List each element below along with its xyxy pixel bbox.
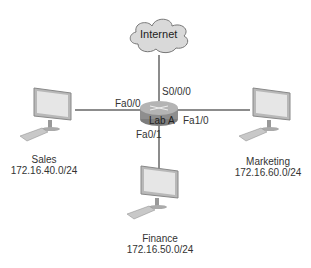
sales-network: 172.16.40.0/24 <box>4 165 84 176</box>
finance-network: 172.16.50.0/24 <box>120 244 200 255</box>
interface-fa10-label: Fa1/0 <box>183 115 209 126</box>
marketing-computer-icon <box>239 88 290 141</box>
interface-fa00-label: Fa0/0 <box>115 98 141 109</box>
sales-computer-icon <box>20 88 71 141</box>
router-label: Lab A <box>149 115 175 126</box>
finance-computer-icon <box>127 166 178 219</box>
finance-name: Finance <box>120 233 200 244</box>
marketing-name: Marketing <box>228 156 308 167</box>
interface-fa01-label: Fa0/1 <box>136 129 162 140</box>
marketing-network: 172.16.60.0/24 <box>228 167 308 178</box>
internet-label: Internet <box>140 29 177 40</box>
interface-s000-label: S0/0/0 <box>162 86 191 97</box>
sales-name: Sales <box>4 154 84 165</box>
